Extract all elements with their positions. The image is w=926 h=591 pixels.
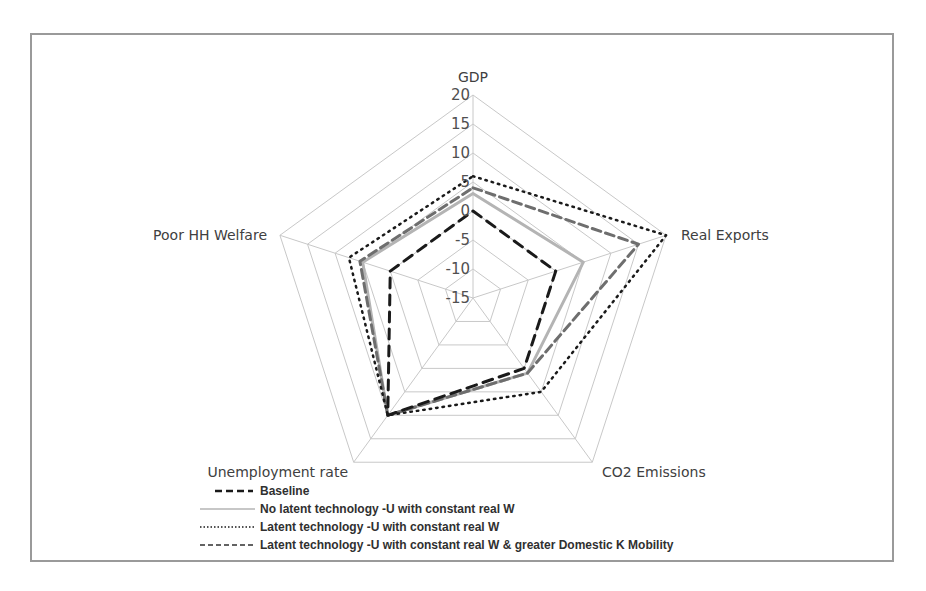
legend-label: Latent technology -U with constant real … — [260, 538, 674, 552]
axis-label-gdp: GDP — [458, 69, 488, 85]
tick-label: 20 — [451, 86, 470, 104]
radar-chart: -15-10-505101520 GDP Real Exports CO2 Em… — [0, 0, 926, 591]
series-dashed-black — [388, 211, 556, 415]
axis-label-poor-hh-welfare: Poor HH Welfare — [153, 227, 267, 243]
axis-label-unemployment-rate: Unemployment rate — [208, 464, 349, 480]
legend: Baseline No latent technology -U with co… — [200, 484, 674, 552]
tick-label: 10 — [451, 144, 470, 162]
tick-label: -5 — [455, 231, 470, 249]
axis-label-co2-emissions: CO2 Emissions — [602, 464, 706, 480]
legend-label: Baseline — [260, 484, 310, 498]
legend-item-latent: Latent technology -U with constant real … — [200, 520, 500, 534]
radar-series — [349, 176, 666, 415]
axis-label-real-exports: Real Exports — [681, 227, 769, 243]
tick-label: -15 — [446, 289, 471, 307]
tick-label: 5 — [460, 173, 470, 191]
legend-item-baseline: Baseline — [215, 484, 310, 498]
legend-label: Latent technology -U with constant real … — [260, 520, 500, 534]
legend-label: No latent technology -U with constant re… — [260, 502, 515, 516]
grid-spoke — [280, 235, 473, 298]
radar-spokes — [280, 95, 666, 462]
tick-label: -10 — [446, 260, 471, 278]
tick-label: 0 — [460, 202, 470, 220]
legend-item-latent-k-mobility: Latent technology -U with constant real … — [200, 538, 674, 552]
tick-label: 15 — [451, 115, 470, 133]
legend-item-no-latent: No latent technology -U with constant re… — [200, 502, 515, 516]
